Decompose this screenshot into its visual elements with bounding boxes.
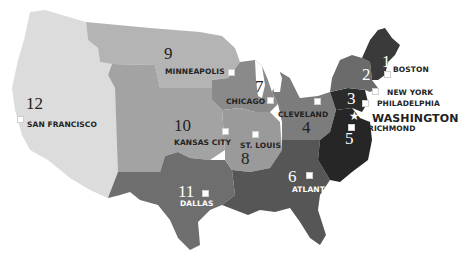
federal-reserve-map: 1 2 3 4 5 6 7 8 9 10 11 12 ★ BOSTON NEW …: [0, 0, 459, 270]
cleveland-marker: [314, 98, 321, 105]
new-york-marker: [372, 88, 379, 95]
city-label-dallas: DALLAS: [180, 200, 213, 208]
district-12-number: 12: [26, 95, 43, 112]
city-label-kansas-city: KANSAS CITY: [174, 139, 231, 147]
washington-star-icon: ★: [349, 110, 360, 122]
boston-marker: [384, 71, 391, 78]
city-label-richmond: RICHMOND: [368, 125, 416, 133]
us-map-shapes: [0, 0, 459, 270]
city-label-new-york: NEW YORK: [387, 89, 433, 97]
san-francisco-marker: [17, 116, 24, 123]
district-8-number: 8: [241, 150, 250, 167]
city-label-atlanta: ATLANTA: [292, 186, 330, 194]
city-label-boston: BOSTON: [393, 66, 429, 74]
district-10-number: 10: [174, 117, 191, 134]
dallas-marker: [202, 190, 209, 197]
city-label-philadelphia: PHILADELPHIA: [377, 100, 440, 108]
district-7-number: 7: [255, 78, 264, 95]
kansas-city-marker: [222, 128, 229, 135]
city-label-st-louis: ST. LOUIS: [240, 142, 281, 150]
district-4-number: 4: [302, 119, 311, 136]
district-9-number: 9: [164, 45, 173, 62]
district-6-number: 6: [288, 168, 297, 185]
city-label-san-francisco: SAN FRANCISCO: [27, 121, 97, 129]
chicago-marker: [267, 97, 274, 104]
district-5-number: 5: [345, 130, 354, 147]
atlanta-marker: [306, 172, 313, 179]
district-11-number: 11: [178, 183, 194, 200]
philadelphia-marker: [362, 100, 369, 107]
city-label-cleveland: CLEVELAND: [278, 111, 328, 119]
district-1-number: 1: [382, 53, 391, 70]
richmond-marker: [348, 124, 355, 131]
district-3-number: 3: [347, 90, 356, 107]
city-label-washington: WASHINGTON: [372, 113, 458, 124]
city-label-minneapolis: MINNEAPOLIS: [165, 68, 225, 76]
st-louis-marker: [252, 131, 259, 138]
minneapolis-marker: [228, 69, 235, 76]
city-label-chicago: CHICAGO: [226, 98, 265, 106]
district-2-number: 2: [362, 66, 371, 83]
